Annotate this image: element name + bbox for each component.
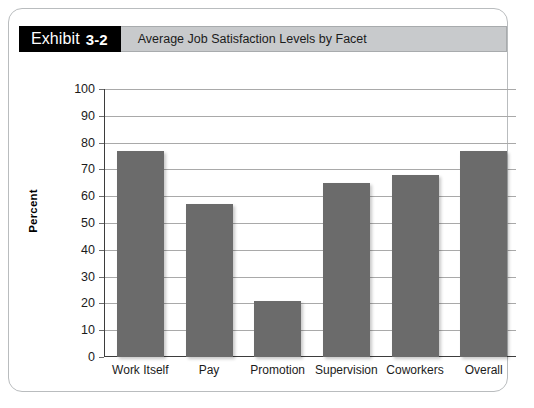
gridline [104, 250, 516, 251]
gridline [104, 303, 516, 304]
y-axis-tick-label: 80 [81, 136, 95, 150]
gridline [104, 143, 516, 144]
y-axis-tick-label: 60 [81, 189, 95, 203]
x-axis-category-label: Coworkers [386, 363, 443, 377]
y-axis-title: Percent [27, 189, 39, 233]
y-axis-tick [99, 357, 104, 358]
exhibit-label: Exhibit [31, 30, 80, 48]
x-axis-category-label: Supervision [315, 363, 378, 377]
y-axis-tick-label: 30 [81, 270, 95, 284]
bar [460, 151, 507, 357]
y-axis-tick-label: 50 [81, 216, 95, 230]
y-axis-tick-label: 20 [81, 296, 95, 310]
bar [392, 175, 439, 357]
gridline [104, 196, 516, 197]
x-axis-category-label: Pay [199, 363, 220, 377]
exhibit-title: Average Job Satisfaction Levels by Facet [138, 32, 367, 46]
x-axis-category-label: Promotion [250, 363, 305, 377]
bar [254, 301, 301, 357]
gridline [104, 277, 516, 278]
gridline [104, 89, 516, 90]
bar [323, 183, 370, 357]
exhibit-number: 3-2 [86, 31, 108, 48]
gridline [104, 116, 516, 117]
y-axis-tick-label: 40 [81, 243, 95, 257]
gridline [104, 169, 516, 170]
y-axis-tick-label: 10 [81, 323, 95, 337]
x-axis-line [104, 356, 516, 358]
gridline [104, 223, 516, 224]
bar-chart: Percent 0102030405060708090100 Work Itse… [19, 61, 507, 391]
x-axis-category-label: Work Itself [112, 363, 168, 377]
exhibit-header: Exhibit 3-2 Average Job Satisfaction Lev… [19, 26, 507, 52]
exhibit-title-band: Average Job Satisfaction Levels by Facet [121, 26, 507, 52]
exhibit-card: Exhibit 3-2 Average Job Satisfaction Lev… [8, 8, 508, 392]
y-axis-line [104, 89, 105, 357]
y-axis-tick-label: 90 [81, 109, 95, 123]
plot-area: 0102030405060708090100 Work ItselfPayPro… [104, 89, 516, 357]
y-axis-tick-label: 0 [88, 350, 95, 364]
x-axis-category-label: Overall [465, 363, 503, 377]
y-axis-tick-label: 100 [74, 82, 95, 96]
bar [186, 204, 233, 357]
exhibit-number-badge: Exhibit 3-2 [19, 26, 121, 52]
bar [117, 151, 164, 357]
gridline [104, 330, 516, 331]
y-axis-tick-label: 70 [81, 162, 95, 176]
